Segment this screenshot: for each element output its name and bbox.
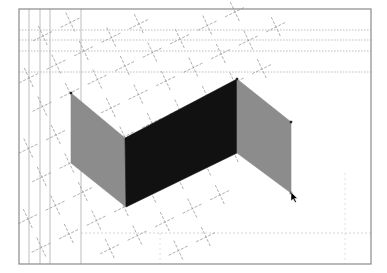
- grid-cross-arm: [24, 139, 33, 159]
- grid-cross-arm: [188, 199, 197, 219]
- grid-cross-arm: [23, 209, 32, 229]
- grid-cross-arm: [106, 98, 115, 118]
- grid-cross-arm: [216, 44, 225, 64]
- vertex-handle: [236, 78, 238, 80]
- grid-cross-arm: [134, 85, 143, 105]
- zigzag-panels[interactable]: [71, 79, 291, 207]
- grid-cross-arm: [78, 182, 87, 202]
- grid-cross-arm: [215, 185, 224, 205]
- grid-cross-arm: [201, 227, 210, 247]
- grid-cross-arm: [52, 55, 61, 75]
- grid-cross-arm: [107, 28, 116, 48]
- grid-cross-arm: [244, 31, 253, 51]
- left-panel[interactable]: [71, 93, 126, 207]
- grid-cross-arm: [160, 212, 169, 232]
- grid-cross-arm: [120, 56, 129, 76]
- grid-cross-arm: [105, 239, 114, 259]
- grid-cross-arm: [174, 241, 183, 261]
- drawing-canvas[interactable]: [0, 0, 387, 273]
- right-panel[interactable]: [237, 79, 291, 193]
- center-panel[interactable]: [125, 79, 237, 207]
- grid-cross-arm: [175, 29, 184, 49]
- grid-cross-arm: [37, 167, 46, 187]
- grid-cross-arm: [37, 238, 46, 258]
- grid-cross-arm: [189, 58, 198, 78]
- grid-cross-arm: [148, 43, 157, 63]
- isometric-drawing[interactable]: [0, 0, 387, 273]
- grid-cross-arm: [66, 13, 75, 33]
- grid-cross-arm: [51, 125, 60, 145]
- grid-cross-arm: [93, 70, 102, 90]
- cursor-arrow-shape: [291, 192, 298, 203]
- grid-cross-arm: [38, 97, 47, 117]
- grid-cross-arm: [92, 211, 101, 231]
- mouse-pointer-icon: [291, 192, 298, 203]
- grid-cross-arm: [64, 224, 73, 244]
- grid-cross-arm: [133, 226, 142, 246]
- grid-cross-arm: [230, 2, 239, 22]
- grid-cross-arm: [51, 196, 60, 216]
- grid-cross-arm: [203, 16, 212, 36]
- vertex-handle: [70, 92, 72, 94]
- grid-cross-arm: [161, 71, 170, 91]
- grid-cross-arm: [134, 14, 143, 34]
- grid-cross-arm: [271, 17, 280, 37]
- vertex-handle: [290, 121, 292, 123]
- grid-cross-arm: [257, 59, 266, 79]
